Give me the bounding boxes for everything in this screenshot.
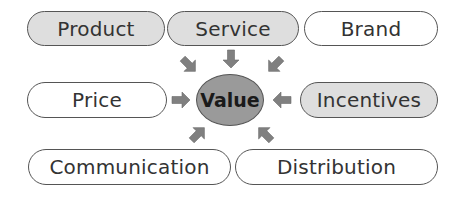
arrow-left-icon	[273, 92, 291, 108]
arrow-down-right-icon	[177, 53, 201, 77]
arrow-up-left-icon	[253, 122, 277, 146]
arrows-layer	[0, 0, 464, 200]
arrow-down-left-icon	[263, 53, 287, 77]
arrow-up-right-icon	[186, 122, 210, 146]
arrow-right-icon	[172, 92, 190, 108]
arrow-down-icon	[223, 50, 239, 68]
